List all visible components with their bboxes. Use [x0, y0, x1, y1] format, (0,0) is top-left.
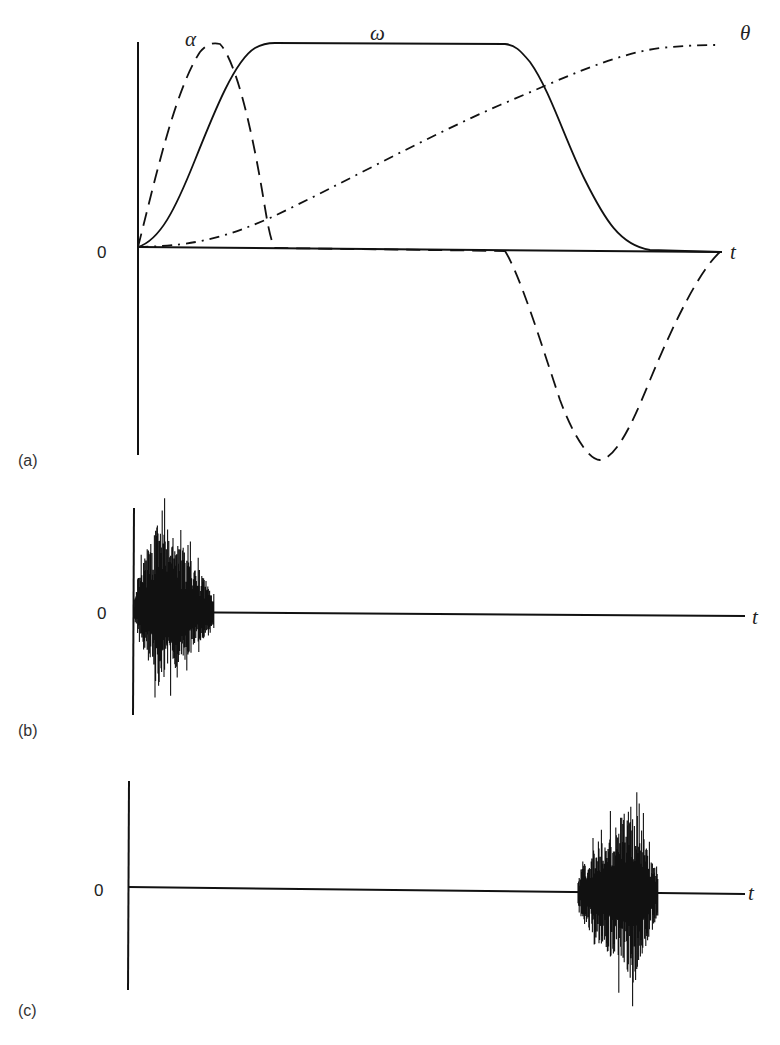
alpha-label: α	[185, 27, 197, 51]
motion-profile-figure: 0 t α ω θ (a) 0 t (b) 0 t (c)	[0, 0, 780, 1045]
panel-b-zero-label: 0	[97, 604, 106, 623]
panel-b-time-label: t	[752, 605, 759, 629]
vibration-burst-start	[134, 498, 214, 697]
panel-b-x-axis	[133, 612, 745, 616]
theta-curve	[138, 45, 720, 247]
theta-label: θ	[740, 21, 750, 45]
panel-a-label: (a)	[18, 452, 38, 469]
panel-b-label: (b)	[18, 722, 38, 739]
noise-trace	[578, 792, 658, 1006]
panel-a-time-label: t	[730, 240, 737, 264]
panel-a: 0 t α ω θ (a)	[18, 21, 750, 469]
figure-canvas: 0 t α ω θ (a) 0 t (b) 0 t (c)	[0, 0, 780, 1045]
panel-b: 0 t (b)	[18, 498, 759, 739]
panel-c-y-axis	[128, 781, 129, 990]
panel-c-label: (c)	[18, 1002, 37, 1019]
omega-curve	[138, 43, 720, 252]
noise-trace	[134, 498, 214, 697]
omega-label: ω	[370, 21, 385, 45]
panel-c-time-label: t	[748, 881, 755, 905]
panel-a-zero-label: 0	[97, 243, 106, 262]
panel-c: 0 t (c)	[18, 781, 755, 1019]
vibration-burst-end	[578, 792, 658, 1006]
panel-c-zero-label: 0	[94, 881, 103, 900]
